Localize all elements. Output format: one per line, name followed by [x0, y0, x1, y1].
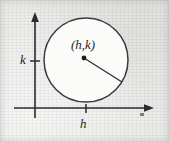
- x-axis-tick-label: h: [80, 117, 87, 130]
- center-point-dot: [82, 56, 87, 61]
- x-axis-arrow-icon: [144, 104, 154, 112]
- y-axis-tick-label: k: [20, 53, 26, 66]
- circle-figure: (h,k) k h: [0, 0, 169, 142]
- center-point-label: (h,k): [71, 38, 95, 51]
- y-axis-arrow-icon: [31, 12, 39, 22]
